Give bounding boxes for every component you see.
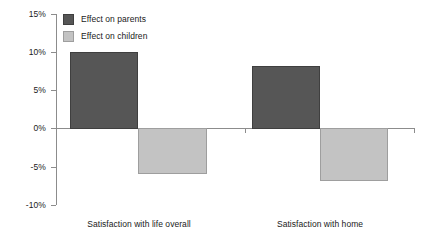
bar-children-satisfaction-with-home <box>320 128 388 181</box>
legend-label-parents: Effect on parents <box>81 14 146 25</box>
legend-item-children: Effect on children <box>63 29 147 43</box>
legend-swatch-parents-icon <box>63 14 74 25</box>
x-axis-end-tick <box>414 129 415 133</box>
y-tick-label-minus5: -5% <box>0 163 46 172</box>
y-tick-label-0: 0% <box>0 124 46 133</box>
category-label-satisfaction-with-home: Satisfaction with home <box>239 219 401 229</box>
category-label-satisfaction-with-life-overall: Satisfaction with life overall <box>58 219 220 229</box>
legend-item-parents: Effect on parents <box>63 12 147 26</box>
y-tick-label-minus10: -10% <box>0 201 46 210</box>
legend-swatch-children-icon <box>63 31 74 42</box>
bar-parents-satisfaction-with-life-overall <box>70 52 138 129</box>
y-tick-5 <box>51 90 56 91</box>
y-tick-minus10 <box>51 205 56 206</box>
bar-children-satisfaction-with-life-overall <box>138 128 207 174</box>
legend-label-children: Effect on children <box>81 31 147 42</box>
y-tick-10 <box>51 52 56 53</box>
chart-legend: Effect on parents Effect on children <box>63 12 147 46</box>
bar-chart: 15% 10% 5% 0% -5% -10% Effect on parents… <box>0 0 425 237</box>
bar-parents-satisfaction-with-home <box>252 66 320 129</box>
y-tick-label-15: 15% <box>0 10 46 19</box>
y-axis-line <box>56 14 57 205</box>
y-tick-minus5 <box>51 167 56 168</box>
plot-area: 15% 10% 5% 0% -5% -10% Effect on parents… <box>0 0 425 237</box>
y-tick-15 <box>51 14 56 15</box>
y-tick-label-5: 5% <box>0 86 46 95</box>
x-axis-group-separator-tick <box>245 129 246 133</box>
y-tick-label-10: 10% <box>0 48 46 57</box>
y-tick-0 <box>51 128 56 129</box>
